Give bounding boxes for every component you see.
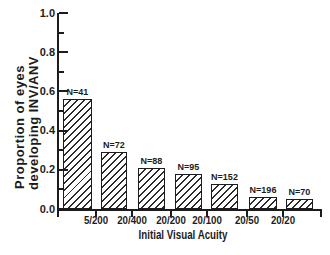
y-major-tick — [59, 208, 68, 210]
y-major-tick — [59, 130, 68, 132]
y-major-tick — [59, 12, 68, 14]
bar-count-label: N=41 — [67, 88, 89, 97]
bar — [63, 99, 92, 209]
y-tick-label: 0.2 — [21, 164, 55, 175]
x-tick-label: 20/200 — [156, 215, 186, 226]
bar-count-label: N=72 — [103, 141, 125, 150]
y-major-tick — [59, 90, 68, 92]
bar — [175, 174, 202, 209]
y-minor-tick — [59, 188, 64, 190]
x-tick-label: 5/200 — [84, 215, 108, 226]
bar — [249, 197, 277, 209]
bar — [286, 199, 313, 209]
y-tick-label: 1.0 — [21, 8, 55, 19]
x-tick-label: 20/20 — [271, 215, 295, 226]
y-minor-tick — [59, 110, 64, 112]
plot-area: N=41N=72N=88N=95N=152N=196N=70 — [57, 13, 322, 211]
x-tick-label: 20/400 — [117, 215, 147, 226]
bar-count-label: N=95 — [178, 163, 200, 172]
x-tick-label: 20/50 — [235, 215, 259, 226]
bar-count-label: N=70 — [289, 188, 311, 197]
y-tick-label: 0.6 — [21, 86, 55, 97]
y-minor-tick — [59, 32, 64, 34]
y-tick-label: 0.4 — [21, 125, 55, 136]
y-major-tick — [59, 169, 68, 171]
y-minor-tick — [59, 149, 64, 151]
bar-count-label: N=152 — [211, 173, 238, 182]
bar — [138, 168, 165, 209]
bar — [101, 152, 127, 209]
y-tick-label: 0.8 — [21, 47, 55, 58]
x-axis-end-tick — [57, 211, 59, 217]
x-axis-title: Initial Visual Acuity — [139, 228, 228, 242]
y-major-tick — [59, 51, 68, 53]
inv-anv-bar-chart: Proportion of eyes developing INV/ANV N=… — [0, 0, 330, 255]
x-axis-end-tick — [320, 211, 322, 217]
x-tick-label: 20/100 — [192, 215, 222, 226]
bar — [211, 184, 238, 209]
bar-count-label: N=196 — [250, 186, 277, 195]
bar-count-label: N=88 — [141, 157, 163, 166]
y-tick-label: 0.0 — [21, 204, 55, 215]
y-minor-tick — [59, 71, 64, 73]
